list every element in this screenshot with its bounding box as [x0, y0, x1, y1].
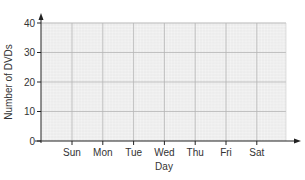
x-tick-label-sun: Sun — [63, 147, 81, 158]
bar-chart: 010203040 Number of DVDs SunMonTueWedThu… — [0, 0, 305, 180]
x-tick-label-fri: Fri — [220, 147, 232, 158]
y-axis-ticks: 010203040 — [24, 18, 41, 147]
x-axis-ticks: SunMonTueWedThuFriSat — [63, 141, 264, 158]
y-tick-label: 40 — [24, 18, 36, 29]
x-tick-label-tue: Tue — [125, 147, 142, 158]
x-tick-label-mon: Mon — [93, 147, 112, 158]
y-axis: 010203040 Number of DVDs — [3, 13, 44, 147]
y-axis-arrow-icon — [39, 13, 44, 20]
y-tick-label: 30 — [24, 47, 36, 58]
x-axis: SunMonTueWedThuFriSat Day — [35, 139, 301, 173]
plot-grid — [41, 23, 286, 141]
x-tick-label-wed: Wed — [154, 147, 174, 158]
y-axis-title: Number of DVDs — [3, 44, 14, 120]
y-tick-label: 20 — [24, 77, 36, 88]
x-axis-title: Day — [155, 161, 173, 172]
x-axis-arrow-icon — [294, 139, 301, 144]
x-tick-label-thu: Thu — [187, 147, 204, 158]
y-tick-label: 0 — [29, 136, 35, 147]
y-tick-label: 10 — [24, 106, 36, 117]
x-tick-label-sat: Sat — [249, 147, 264, 158]
